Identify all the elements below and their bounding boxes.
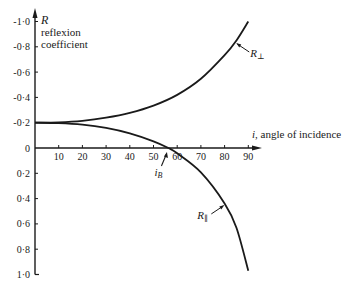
r-perp-label: R⊥ <box>249 47 264 61</box>
y-tick-label: 1·0 <box>17 269 30 280</box>
brewster-arrow-icon <box>164 152 168 158</box>
x-tick-label: 10 <box>54 151 64 162</box>
y-tick-label: -0·8 <box>13 41 30 52</box>
r-par-label: R∥ <box>196 209 207 223</box>
x-tick-label: 90 <box>243 151 253 162</box>
y-tick-label: 0·6 <box>17 218 30 229</box>
x-axis-arrow-icon <box>252 146 262 151</box>
r-perp-arrow-icon <box>236 43 241 48</box>
x-tick-label: 50 <box>149 151 159 162</box>
y-tick-label: -0·2 <box>13 117 30 128</box>
y-axis-label-line2: coefficient <box>41 38 88 50</box>
x-tick-label: 20 <box>77 151 87 162</box>
r-par-arrow-icon <box>219 205 224 210</box>
curves <box>35 22 248 271</box>
y-axis-symbol: R <box>40 13 49 27</box>
reflexion-coefficient-chart: 102030405060708090-1·0-0·8-0·6-0·4-0·200… <box>0 0 346 284</box>
y-tick-label: 0·8 <box>17 244 30 255</box>
y-axis-arrow-icon <box>33 8 38 18</box>
x-tick-label: 80 <box>220 151 230 162</box>
y-tick-label: -1·0 <box>13 16 30 27</box>
y-tick-label: 0 <box>25 143 30 154</box>
x-tick-label: 40 <box>125 151 135 162</box>
labels: R reflexion coefficient i, angle of inci… <box>40 13 341 223</box>
y-tick-label: -0·4 <box>13 92 30 103</box>
y-tick-label: -0·6 <box>13 67 30 78</box>
brewster-angle-label: iB <box>154 166 162 180</box>
x-tick-label: 70 <box>196 151 206 162</box>
x-tick-label: 30 <box>101 151 111 162</box>
r-parallel-curve <box>35 123 248 271</box>
x-axis-label: i, angle of incidence <box>252 128 341 140</box>
y-tick-label: 0·4 <box>17 193 30 204</box>
y-axis-label-line1: reflexion <box>41 26 81 38</box>
y-tick-label: 0·2 <box>17 168 30 179</box>
